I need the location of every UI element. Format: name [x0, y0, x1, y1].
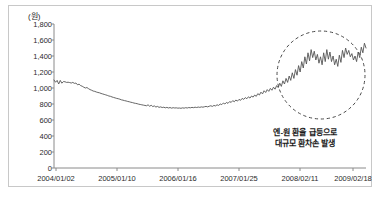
- spike-highlight-dashed-circle: [277, 31, 365, 119]
- chart-figure: (원) 1,800 1,600 1,400 1,200 1,000 800 60…: [0, 0, 380, 202]
- chart-plot-area: [0, 0, 380, 202]
- series-line-exchange-rate: [54, 43, 366, 108]
- chart-axes: [51, 24, 366, 171]
